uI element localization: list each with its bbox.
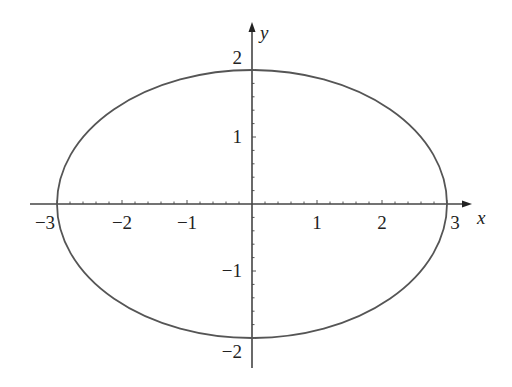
y-tick-label: 1 — [233, 126, 243, 147]
x-axis-arrow-icon — [462, 201, 472, 208]
y-tick-label: −1 — [222, 260, 242, 281]
ellipse-plot: −3−2−1123 21−1−2 x y — [0, 0, 512, 387]
x-axis-label: x — [476, 207, 486, 228]
y-axis-arrow-icon — [249, 22, 256, 32]
x-tick-label: 2 — [377, 212, 387, 233]
y-axis-label: y — [258, 22, 269, 43]
x-tick-label: −3 — [35, 212, 55, 233]
x-tick-label: −1 — [177, 212, 197, 233]
x-tick-label: −2 — [112, 212, 132, 233]
x-tick-label: 1 — [312, 212, 322, 233]
x-tick-label: 3 — [450, 212, 460, 233]
y-tick-label: 2 — [233, 47, 243, 68]
x-tick-labels: −3−2−1123 — [35, 212, 460, 233]
y-tick-label: −2 — [222, 341, 242, 362]
